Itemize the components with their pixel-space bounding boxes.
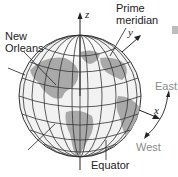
prime-meridian-label-line2: meridian (116, 14, 158, 26)
east-label: East (155, 80, 177, 92)
y-axis (122, 38, 138, 52)
left-pointer-line (8, 68, 25, 75)
z-axis-arrow-icon (78, 12, 83, 19)
new-orleans-label-line2: Orleans (5, 42, 44, 54)
prime-meridian-label-line1: Prime (116, 2, 145, 14)
z-axis-label: z (85, 8, 89, 20)
equator-label: Equator (91, 159, 130, 171)
new-orleans-label-line1: New (5, 30, 27, 42)
y-axis-label: y (128, 26, 133, 38)
marker-square (172, 26, 178, 34)
x-axis-label: x (154, 104, 159, 116)
west-label: West (136, 141, 161, 153)
